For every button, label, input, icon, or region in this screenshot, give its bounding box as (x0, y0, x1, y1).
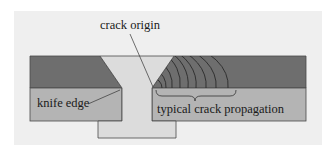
diagram-canvas: crack origin knife edge typical crack pr… (0, 0, 335, 157)
knife-edge-label: knife edge (37, 96, 90, 110)
right-plate-upper (152, 56, 306, 88)
typical-crack-propagation-label: typical crack propagation (157, 102, 285, 116)
crack-origin-label: crack origin (100, 18, 161, 32)
